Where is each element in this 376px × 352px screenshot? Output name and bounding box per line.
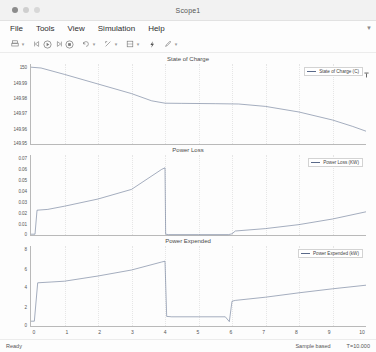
ytick-label: 149.98 [14, 96, 27, 101]
pencil-icon[interactable] [162, 38, 173, 50]
xtick-label: 6 [229, 329, 232, 335]
plot-axes-2: Power Loss (KW) [30, 155, 366, 236]
ytick-label: 6 [25, 266, 27, 271]
ytick-label: 149.97 [14, 111, 27, 116]
menu-bar: File Tools View Simulation Help ▼ [0, 21, 376, 36]
lightning-icon[interactable] [146, 38, 157, 50]
status-ready-label: Ready [6, 343, 22, 349]
xtick-label: 7 [262, 329, 265, 335]
legend-label: State of Charge (C) [319, 69, 359, 74]
status-time: T=10.000 [347, 343, 370, 349]
legend-line-icon [311, 162, 320, 163]
ytick-label: 4 [25, 285, 27, 290]
yaxis-labels-plot1: 150 149.99 149.98 149.97 149.96 149.95 [4, 64, 29, 145]
menu-view[interactable]: View [68, 24, 85, 33]
ytick-label: 0.02 [18, 210, 27, 215]
menu-help[interactable]: Help [148, 24, 164, 33]
menu-simulation[interactable]: Simulation [98, 24, 135, 33]
cursor-icon[interactable] [102, 38, 113, 50]
style-caret-icon[interactable]: ▾ [173, 38, 179, 50]
status-bar: Ready Sample based T=10.000 [0, 339, 376, 352]
xtick-label: 10 [359, 329, 365, 335]
xtick-label: 9 [328, 329, 331, 335]
legend-line-icon [301, 253, 310, 254]
plot-title-state-of-charge: State of Charge [4, 55, 372, 64]
play-circle-icon[interactable] [42, 38, 53, 50]
stop-circle-icon[interactable] [64, 38, 75, 50]
legend-line-icon [307, 71, 316, 72]
menu-overflow-caret-icon[interactable]: ▼ [366, 25, 372, 31]
ytick-label: 149.95 [14, 140, 27, 145]
window-title: Scope1 [0, 7, 376, 14]
xtick-label: 3 [131, 329, 134, 335]
ytick-label: 2 [25, 304, 27, 309]
ytick-label: 149.96 [14, 126, 27, 131]
ytick-label: 0.06 [18, 166, 27, 171]
yaxis-labels-plot3: 8 6 4 2 0 [4, 246, 29, 327]
plot-title-power-expended: Power Expended [4, 237, 372, 246]
yaxis-labels-plot2: 0.07 0.06 0.05 0.04 0.03 0.02 0.01 0 [4, 155, 29, 236]
close-button[interactable] [12, 7, 18, 13]
status-sample-mode: Sample based [295, 343, 330, 349]
ytick-label: 0.04 [18, 188, 27, 193]
minimize-button[interactable] [23, 7, 29, 13]
layout-grid-icon[interactable] [124, 38, 135, 50]
power-loss-plot: Power Loss 0.07 0.06 0.05 0.04 0.03 0.02… [4, 146, 372, 236]
ytick-label: 150 [20, 65, 27, 70]
ytick-label: 149.99 [14, 80, 27, 85]
menu-tools[interactable]: Tools [36, 24, 55, 33]
plot-curve-1 [31, 64, 366, 144]
plot-curve-3 [31, 246, 366, 326]
window-controls [12, 7, 40, 13]
plot-stack: State of Charge 150 149.99 149.98 149.97… [0, 53, 376, 328]
plot-title-power-loss: Power Loss [4, 146, 372, 155]
maximize-button[interactable] [34, 7, 40, 13]
scope-window: Scope1 File Tools View Simulation Help ▼… [0, 0, 376, 352]
xtick-label: 2 [98, 329, 101, 335]
plot-axes-1: State of Charge (C) [30, 64, 366, 145]
menu-file[interactable]: File [10, 24, 23, 33]
state-of-charge-plot: State of Charge 150 149.99 149.98 149.97… [4, 55, 372, 145]
plot-curve-2 [31, 155, 366, 235]
xtick-label: 1 [65, 329, 68, 335]
x-axis: 0 1 2 3 4 5 6 7 8 9 10 [4, 328, 372, 339]
xtick-label: 5 [197, 329, 200, 335]
plot-axes-3: Power Expended (kW) [30, 246, 366, 327]
xtick-label: 0 [33, 329, 36, 335]
ytick-label: 0.03 [18, 199, 27, 204]
title-bar: Scope1 [0, 0, 376, 21]
undo-icon[interactable] [80, 38, 91, 50]
printer-icon[interactable] [9, 38, 20, 50]
legend-label: Power Loss (KW) [323, 160, 359, 165]
legend-plot2: Power Loss (KW) [308, 158, 363, 167]
legend-label: Power Expended (kW) [313, 251, 359, 256]
ytick-label: 0.07 [18, 156, 27, 161]
legend-plot3: Power Expended (kW) [298, 249, 363, 258]
power-expended-plot: Power Expended 8 6 4 2 0 [4, 237, 372, 327]
step-forward-icon[interactable] [53, 38, 64, 50]
ytick-label: 0.05 [18, 178, 27, 183]
legend-plot1: State of Charge (C) [304, 67, 363, 76]
xtick-label: 8 [295, 329, 298, 335]
xtick-label: 4 [164, 329, 167, 335]
ytick-label: 0.01 [18, 221, 27, 226]
step-back-icon[interactable] [31, 38, 42, 50]
ytick-label: 8 [25, 247, 27, 252]
tool-bar: ▾ ▾ ▾ ▾ [0, 36, 376, 53]
